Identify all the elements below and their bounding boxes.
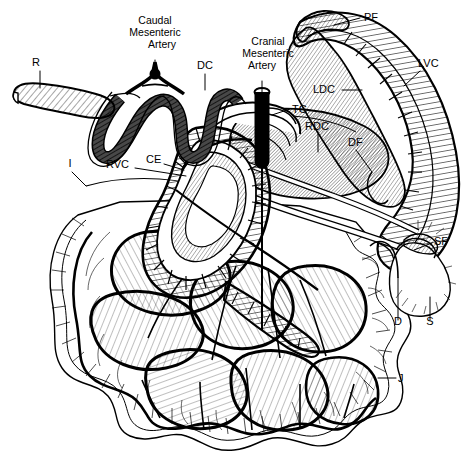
- label-stomach: S: [426, 315, 433, 327]
- label-cma-line2: Mesenteric: [129, 26, 180, 38]
- label-right-ventral-colon: RVC: [106, 158, 129, 170]
- label-cma-line1: Caudal: [138, 14, 171, 26]
- label-sternal-flexure: SF: [434, 235, 448, 247]
- label-crma-line2: Mesenteric: [242, 47, 293, 59]
- label-diaphragmatic-flexure: DF: [348, 136, 363, 148]
- label-cma-line3: Artery: [148, 38, 177, 50]
- label-rectum: R: [32, 56, 40, 68]
- label-transverse-colon: TC: [292, 103, 307, 115]
- label-right-dorsal-colon: RDC: [305, 120, 329, 132]
- label-proximal-flexure: PF: [364, 11, 378, 23]
- anatomical-figure: R Caudal Mesenteric Artery DC Cranial Me…: [0, 0, 472, 457]
- label-descending-colon: DC: [197, 59, 213, 71]
- label-jejunum: J: [398, 372, 404, 384]
- label-left-ventral-colon: LVC: [418, 57, 439, 69]
- label-duodenum: D: [394, 315, 402, 327]
- label-left-dorsal-colon: LDC: [313, 83, 335, 95]
- label-crma-line1: Cranial: [251, 35, 284, 47]
- gi-tract-illustration: R Caudal Mesenteric Artery DC Cranial Me…: [0, 0, 472, 457]
- label-cecum: CE: [146, 153, 161, 165]
- jejunal-lobe: [306, 357, 378, 424]
- cma-trunk: [255, 92, 270, 169]
- label-crma-line3: Artery: [248, 59, 277, 71]
- label-ileum: I: [68, 157, 71, 169]
